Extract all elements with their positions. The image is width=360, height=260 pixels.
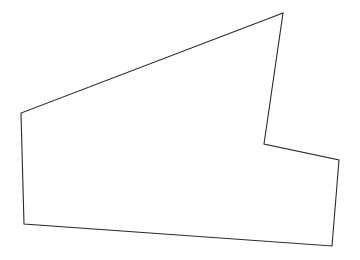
drawing-canvas [0, 0, 360, 260]
polygon-drawing [0, 0, 360, 260]
irregular-concave-polygon-path [21, 13, 339, 246]
